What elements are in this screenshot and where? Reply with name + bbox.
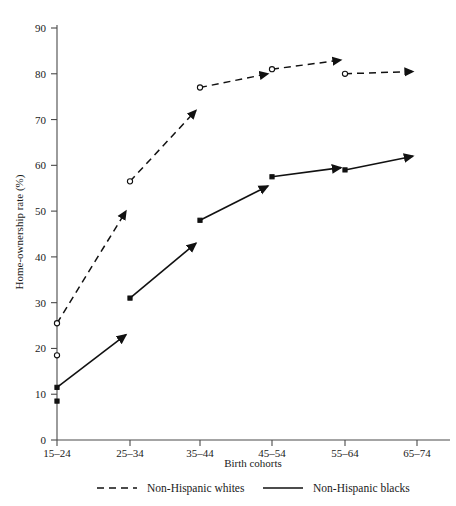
segment-arrow bbox=[200, 186, 268, 220]
segment-arrow bbox=[272, 60, 341, 69]
data-point-marker-secondary bbox=[54, 353, 59, 358]
segment-arrow bbox=[130, 110, 196, 181]
x-tick-label: 25–34 bbox=[116, 447, 144, 459]
segment-arrow bbox=[130, 243, 196, 298]
y-tick-label: 60 bbox=[35, 159, 47, 171]
segment-arrow bbox=[57, 335, 126, 388]
data-point-marker bbox=[55, 385, 59, 389]
series-dashed bbox=[54, 60, 413, 358]
chart-container: 0102030405060708090 15–2425–3435–4445–54… bbox=[0, 0, 456, 506]
segment-arrow bbox=[272, 168, 341, 177]
data-point-marker bbox=[197, 85, 202, 90]
data-point-marker bbox=[127, 179, 132, 184]
series-solid bbox=[55, 156, 413, 403]
segment-arrow bbox=[200, 74, 268, 88]
y-tick-label: 10 bbox=[35, 388, 47, 400]
x-tick-label: 15–24 bbox=[43, 447, 71, 459]
y-tick-label: 90 bbox=[35, 22, 47, 34]
data-point-marker bbox=[343, 168, 347, 172]
y-axis-ticks: 0102030405060708090 bbox=[35, 22, 57, 446]
x-tick-label: 55–64 bbox=[331, 447, 359, 459]
legend-label-non-hispanic-blacks: Non-Hispanic blacks bbox=[313, 482, 410, 495]
data-point-marker bbox=[342, 71, 347, 76]
data-point-marker-secondary bbox=[55, 399, 59, 403]
home-ownership-rate-chart: 0102030405060708090 15–2425–3435–4445–54… bbox=[0, 0, 456, 506]
legend-label-non-hispanic-whites: Non-Hispanic whites bbox=[147, 482, 245, 495]
segment-arrow bbox=[345, 156, 413, 170]
y-tick-label: 50 bbox=[35, 205, 47, 217]
segment-arrow bbox=[345, 71, 413, 73]
data-point-marker bbox=[128, 296, 132, 300]
series-layer bbox=[54, 60, 413, 403]
data-point-marker bbox=[270, 175, 274, 179]
x-tick-label: 65–74 bbox=[403, 447, 431, 459]
y-tick-label: 80 bbox=[35, 68, 47, 80]
y-tick-label: 70 bbox=[35, 114, 47, 126]
data-point-marker bbox=[198, 218, 202, 222]
y-tick-label: 40 bbox=[35, 251, 47, 263]
x-axis-title: Birth cohorts bbox=[224, 457, 282, 469]
y-axis-title: Home-ownership rate (%) bbox=[13, 174, 26, 289]
chart-legend: Non-Hispanic whites Non-Hispanic blacks bbox=[97, 482, 410, 495]
x-tick-label: 35–44 bbox=[186, 447, 214, 459]
y-tick-label: 30 bbox=[35, 297, 47, 309]
axes bbox=[57, 25, 450, 440]
data-point-marker bbox=[269, 67, 274, 72]
y-tick-label: 0 bbox=[41, 434, 47, 446]
segment-arrow bbox=[57, 211, 126, 323]
y-tick-label: 20 bbox=[35, 342, 47, 354]
data-point-marker bbox=[54, 321, 59, 326]
